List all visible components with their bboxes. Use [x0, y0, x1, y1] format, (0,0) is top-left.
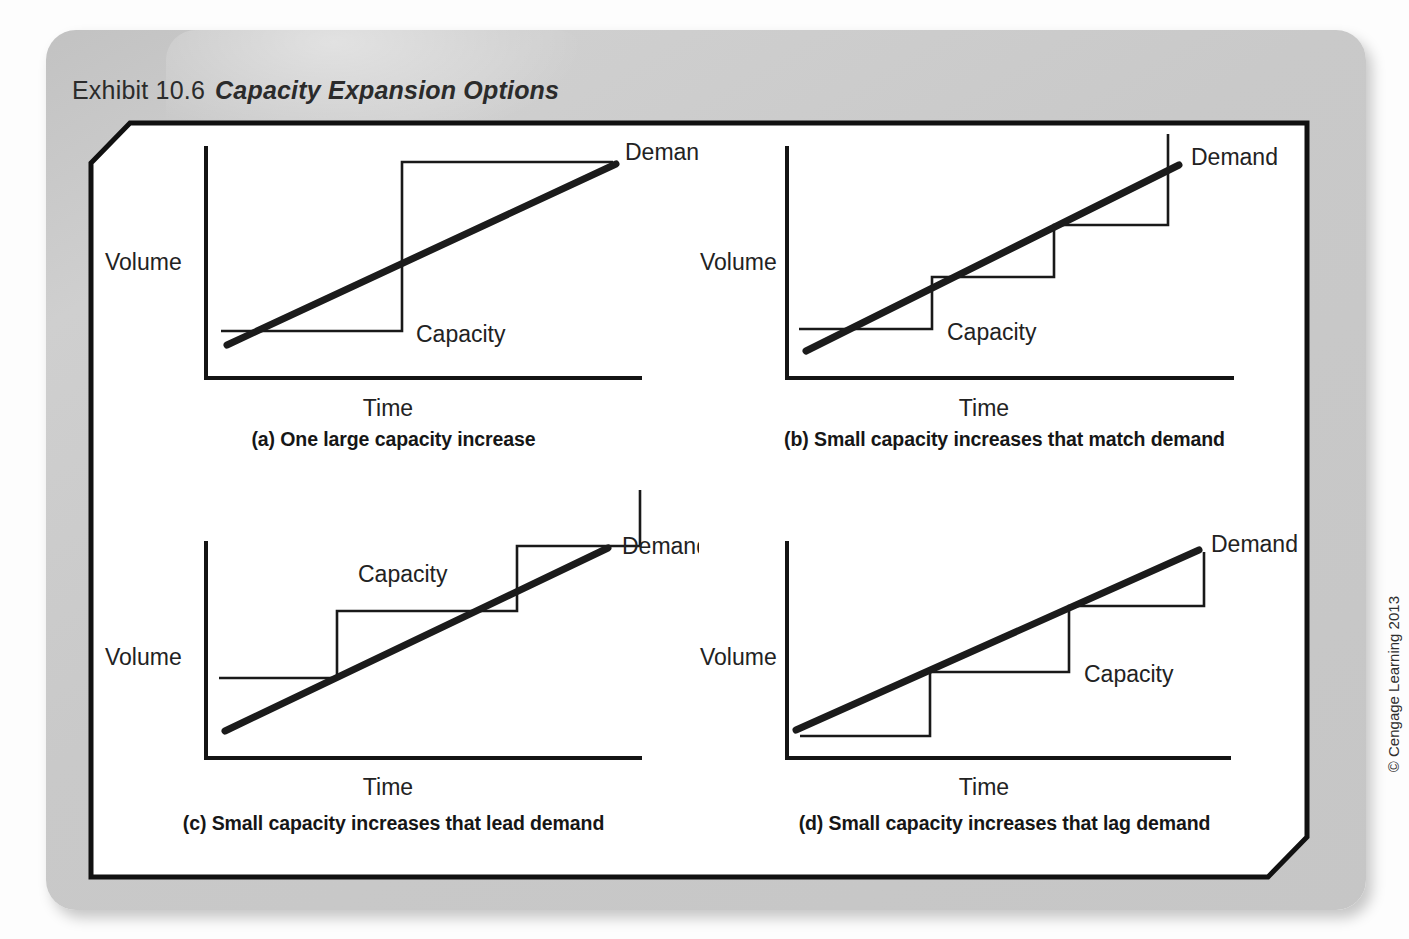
copyright-notice: © Cengage Learning 2013	[1385, 596, 1402, 772]
chart-b-x-axis-label: Time	[959, 395, 1009, 421]
chart-a-demand-line	[227, 164, 616, 345]
chart-grid: Demand Capacity Volume Time (a) One larg…	[88, 120, 1310, 880]
chart-c-svg: Demand Capacity Volume Time	[88, 490, 699, 830]
chart-c-capacity-label: Capacity	[358, 561, 448, 587]
chart-a-caption: (a) One large capacity increase	[88, 428, 699, 451]
figure-plate: Demand Capacity Volume Time (a) One larg…	[88, 120, 1310, 880]
page-background: Exhibit 10.6Capacity Expansion Options D…	[0, 0, 1409, 939]
chart-a-svg: Demand Capacity Volume Time	[88, 120, 699, 450]
chart-c-demand-label: Demand	[622, 533, 699, 559]
chart-c-y-axis-label: Volume	[105, 644, 182, 670]
exhibit-title: Capacity Expansion Options	[215, 76, 559, 104]
chart-b-y-axis-label: Volume	[700, 249, 777, 275]
chart-d-y-axis-label: Volume	[700, 644, 777, 670]
chart-d-capacity-line	[800, 552, 1204, 736]
chart-a-capacity-line	[221, 162, 613, 331]
chart-d-x-axis-label: Time	[959, 774, 1009, 800]
chart-panel-a: Demand Capacity Volume Time (a) One larg…	[88, 120, 699, 500]
chart-a-y-axis-label: Volume	[105, 249, 182, 275]
chart-c-caption: (c) Small capacity increases that lead d…	[88, 812, 699, 835]
chart-d-capacity-label: Capacity	[1084, 661, 1174, 687]
chart-d-caption: (d) Small capacity increases that lag de…	[699, 812, 1310, 835]
chart-c-x-axis-label: Time	[363, 774, 413, 800]
chart-panel-b: Demand Capacity Volume Time (b) Small ca…	[699, 120, 1310, 500]
chart-panel-d: Demand Capacity Volume Time (d) Small ca…	[699, 490, 1310, 870]
chart-b-demand-label: Demand	[1191, 144, 1278, 170]
chart-a-x-axis-label: Time	[363, 395, 413, 421]
chart-a-capacity-label: Capacity	[416, 321, 506, 347]
chart-a-demand-label: Demand	[625, 139, 699, 165]
chart-b-svg: Demand Capacity Volume Time	[699, 120, 1310, 450]
chart-d-axes	[787, 543, 1229, 758]
chart-b-capacity-line	[799, 134, 1168, 329]
exhibit-number: Exhibit 10.6	[72, 76, 205, 104]
chart-d-demand-line	[796, 550, 1199, 730]
chart-d-demand-label: Demand	[1211, 531, 1298, 557]
exhibit-heading: Exhibit 10.6Capacity Expansion Options	[72, 76, 559, 105]
chart-panel-c: Demand Capacity Volume Time (c) Small ca…	[88, 490, 699, 870]
chart-b-capacity-label: Capacity	[947, 319, 1037, 345]
chart-d-svg: Demand Capacity Volume Time	[699, 490, 1310, 830]
chart-b-caption: (b) Small capacity increases that match …	[699, 428, 1310, 451]
